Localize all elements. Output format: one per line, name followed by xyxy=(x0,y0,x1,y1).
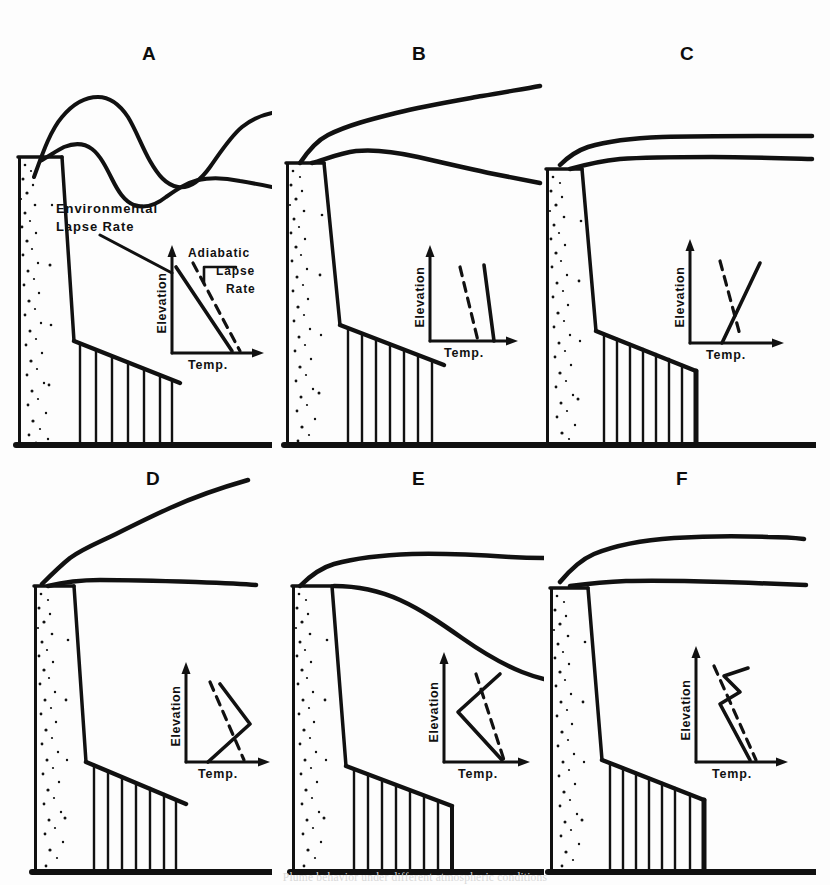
label-adiabatic-lapse-rate-line2-a: Lapse xyxy=(216,264,255,278)
panel-f-drawing: Elevation Temp. xyxy=(544,462,816,882)
label-adiabatic-lapse-rate-line3-a: Rate xyxy=(226,282,256,296)
plume-lower-edge-f xyxy=(570,581,806,586)
inset-chart-d xyxy=(182,662,271,767)
panel-a-drawing: Elevation Temp. Environmental Lapse Rate… xyxy=(0,35,272,455)
panel-b-drawing: Elevation Temp. xyxy=(272,35,544,455)
plume-upper-edge-f xyxy=(560,536,804,582)
inset-y-arrowhead-a xyxy=(168,245,177,257)
panel-d: D xyxy=(0,462,272,882)
plume-upper-edge-a xyxy=(34,97,272,187)
label-adiabatic-lapse-rate-line1-a: Adiabatic xyxy=(188,246,250,260)
building-hatch-b xyxy=(348,328,432,443)
inset-x-label-b: Temp. xyxy=(444,346,484,360)
stack-stipple-c xyxy=(546,169,582,445)
stack-right-wall-a xyxy=(62,157,74,341)
stack-stipple-f xyxy=(550,588,586,872)
figure-plume-behavior: A xyxy=(0,0,830,885)
stack-right-wall-f xyxy=(588,588,602,760)
inset-x-arrowhead-f xyxy=(776,758,788,767)
plume-upper-edge-d xyxy=(42,480,248,584)
inset-y-arrowhead-c xyxy=(686,239,695,251)
panel-e-drawing: Elevation Temp. xyxy=(272,462,544,882)
inset-y-label-a: Elevation xyxy=(155,273,169,334)
panel-label-e: E xyxy=(412,468,425,490)
label-environmental-lapse-rate-line2-a: Lapse Rate xyxy=(56,219,134,234)
inset-y-label-e: Elevation xyxy=(427,682,441,743)
building-hatch-a xyxy=(80,344,172,443)
stack-stipple-a xyxy=(18,157,53,447)
plume-upper-edge-b xyxy=(300,86,540,163)
stack-right-wall-b xyxy=(324,163,340,325)
inset-adiabatic-line-b xyxy=(460,267,478,341)
building-hatch-c xyxy=(604,334,682,443)
building-roof-b xyxy=(340,325,444,365)
building-roof-f xyxy=(602,760,704,800)
plume-lower-edge-e xyxy=(334,586,544,679)
stack-right-wall-c xyxy=(582,169,596,331)
inset-environmental-line-e xyxy=(458,674,502,760)
panel-label-c: C xyxy=(680,43,694,65)
panel-a: A xyxy=(0,35,272,455)
inset-environmental-line-d xyxy=(208,684,250,762)
panel-c-drawing: Elevation Temp. xyxy=(544,35,816,455)
inset-x-arrowhead-b xyxy=(506,337,518,346)
inset-chart-c xyxy=(686,239,785,348)
panel-d-drawing: Elevation Temp. xyxy=(0,462,272,882)
plume-lower-edge-b xyxy=(312,150,540,183)
inset-x-label-d: Temp. xyxy=(198,767,238,781)
inset-chart-b xyxy=(426,245,519,346)
inset-adiabatic-line-f xyxy=(714,666,756,760)
stack-stipple-d xyxy=(34,586,69,872)
stack-right-wall-d xyxy=(74,586,86,762)
panel-b: B xyxy=(272,35,544,455)
inset-chart-f xyxy=(692,646,789,767)
building-roof-e xyxy=(346,766,452,806)
inset-x-arrowhead-a xyxy=(252,349,264,358)
leader-line-environmental-a xyxy=(100,235,172,273)
panel-label-d: D xyxy=(146,468,160,490)
panel-c: C xyxy=(544,35,816,455)
inset-x-label-e: Temp. xyxy=(458,767,498,781)
panel-label-b: B xyxy=(412,43,426,65)
inset-environmental-line-c xyxy=(722,263,760,343)
plume-upper-edge-e xyxy=(300,554,544,586)
inset-y-arrowhead-b xyxy=(426,245,435,257)
inset-x-arrowhead-e xyxy=(518,758,530,767)
panel-label-a: A xyxy=(142,43,156,65)
inset-environmental-line-b xyxy=(484,265,494,341)
plume-lower-edge-c xyxy=(570,157,812,169)
inset-y-label-c: Elevation xyxy=(673,267,687,328)
inset-x-arrowhead-c xyxy=(772,339,784,348)
stack-stipple-e xyxy=(292,586,328,872)
panel-f: F xyxy=(544,462,816,882)
inset-y-label-f: Elevation xyxy=(679,680,693,741)
building-hatch-f xyxy=(610,763,690,870)
stack-stipple-b xyxy=(286,163,323,447)
inset-y-arrowhead-e xyxy=(440,652,449,664)
inset-y-label-d: Elevation xyxy=(169,686,183,747)
inset-y-label-b: Elevation xyxy=(413,267,427,328)
panel-label-f: F xyxy=(676,468,688,490)
inset-x-arrowhead-d xyxy=(258,758,270,767)
stack-right-wall-e xyxy=(332,586,346,766)
inset-y-arrowhead-d xyxy=(182,662,191,674)
label-environmental-lapse-rate-line1-a: Environmental xyxy=(56,201,158,216)
building-hatch-e xyxy=(354,769,438,870)
plume-lower-edge-a xyxy=(40,144,272,206)
panel-e: E xyxy=(272,462,544,882)
inset-x-label-a: Temp. xyxy=(188,358,228,372)
plume-lower-edge-d xyxy=(48,580,256,586)
inset-x-label-c: Temp. xyxy=(706,348,746,362)
figure-caption: Plume behavior under different atmospher… xyxy=(0,871,830,883)
inset-y-arrowhead-f xyxy=(692,646,701,658)
inset-chart-a xyxy=(168,245,265,358)
inset-x-label-f: Temp. xyxy=(712,767,752,781)
